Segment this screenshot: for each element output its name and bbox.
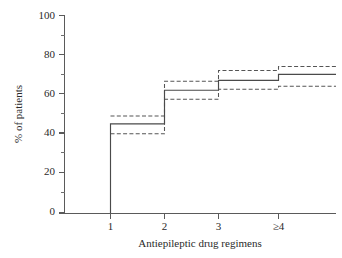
y-tick-label-80: 80 <box>44 48 56 60</box>
x-tick-label-2: 2 <box>162 220 168 232</box>
chart-canvas: 100 80 60 40 20 0 1 2 3 ≥4 Antiepileptic… <box>0 0 342 258</box>
data-series-group <box>111 66 337 213</box>
lower-confidence-limit-line <box>111 86 337 134</box>
y-tick-label-40: 40 <box>44 126 56 138</box>
y-axis-title: % of patients <box>12 85 24 143</box>
x-axis-tick-labels: 1 2 3 ≥4 <box>108 220 285 232</box>
y-axis-tick-labels: 100 80 60 40 20 0 <box>39 9 56 217</box>
x-axis-ticks <box>111 214 279 220</box>
x-tick-label-1: 1 <box>108 220 114 232</box>
x-tick-label-ge4: ≥4 <box>273 220 285 232</box>
x-axis-title: Antiepileptic drug regimens <box>138 237 261 249</box>
y-axis-ticks <box>59 16 65 214</box>
axis-lines <box>65 15 337 214</box>
cumulative-percent-line <box>111 74 337 213</box>
y-tick-label-20: 20 <box>44 165 56 177</box>
y-tick-label-100: 100 <box>39 9 56 21</box>
y-tick-label-0: 0 <box>50 205 56 217</box>
x-tick-label-3: 3 <box>216 220 222 232</box>
y-tick-label-60: 60 <box>44 87 56 99</box>
chart-figure: 100 80 60 40 20 0 1 2 3 ≥4 Antiepileptic… <box>0 0 342 258</box>
